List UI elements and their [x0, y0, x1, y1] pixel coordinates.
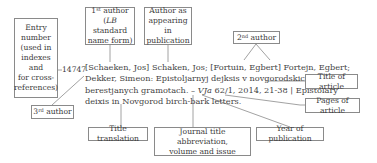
citation-text: [Schaeken, Jos] Schaken, Jos; [Fortuin, … [85, 62, 305, 107]
label-line: references) [14, 83, 58, 93]
citation-segment: berestjanych gramotach. – [85, 85, 198, 95]
label-line: volume and issue [169, 147, 236, 157]
abbrev: LB [106, 16, 117, 25]
label-line: 3rd author [33, 107, 71, 117]
label-second-author: 2nd author [233, 31, 280, 44]
label-word: standard [93, 26, 127, 35]
citation-line: deixis in Novgorod birch-bark letters. [85, 96, 305, 107]
label-first-author: 1st author (LB standard name form) [85, 7, 135, 45]
label-pages-of-article: Pages of article [305, 98, 360, 113]
label-title-of-article: Title of article [305, 74, 358, 89]
label-line: publication [146, 36, 189, 46]
label-line: Journal title abbreviation, [155, 127, 250, 147]
label-title-translation: Title translation [88, 127, 148, 141]
label-line: 1st author [91, 6, 128, 16]
entry-number-value: 14747 [62, 65, 86, 74]
label-line: 2nd author [237, 33, 276, 43]
label-line: name form) [88, 36, 133, 46]
label-line: Entry [25, 23, 46, 33]
citation-line: [Schaeken, Jos] Schaken, Jos; [Fortuin, … [85, 62, 305, 73]
label-line: number [21, 33, 51, 43]
label-word: author [44, 107, 72, 116]
label-entry-number: Entry number (used in indexes and for cr… [14, 18, 58, 98]
label-line: appearing in [145, 16, 191, 36]
label-line: indexes and [15, 53, 57, 73]
label-word: author [101, 6, 129, 15]
label-line: Year of publication [257, 124, 323, 144]
label-line: (LB standard [86, 16, 134, 36]
label-third-author: 3rd author [31, 105, 74, 119]
journal-abbrev: VJa [198, 85, 212, 95]
citation-line: Dekker, Simeon: Epistoljarnyj dejksis v … [85, 73, 305, 84]
label-line: for cross- [18, 73, 54, 83]
label-line: Title of article [306, 72, 357, 92]
label-line: Pages of article [306, 96, 359, 116]
label-journal: Journal title abbreviation, volume and i… [154, 127, 251, 156]
label-author-as-appearing: Author as appearing in publication [144, 7, 192, 45]
label-line: (used in [21, 43, 52, 53]
label-line: Title translation [89, 124, 147, 144]
label-year-of-publication: Year of publication [256, 127, 324, 141]
label-line: Author as [149, 6, 186, 16]
citation-line: berestjanych gramotach. – VJa 62/1, 2014… [85, 85, 305, 96]
label-word: author [248, 33, 276, 42]
